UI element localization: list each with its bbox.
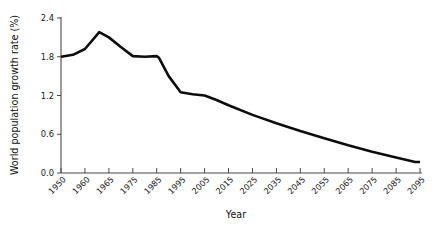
line-chart-canvas: 0.00.61.21.82.4 195019601965197519851995… — [0, 0, 437, 228]
y-tick-label: 0.0 — [41, 168, 54, 178]
x-tick-labels: 1950196019651975198519952005201520252035… — [46, 174, 427, 196]
x-tick-label: 2035 — [262, 174, 284, 196]
x-tick-label: 2095 — [405, 174, 427, 196]
y-tick-label: 1.8 — [41, 52, 54, 62]
x-axis-title: Year — [225, 209, 246, 220]
y-tick-label: 2.4 — [41, 13, 54, 23]
x-tick-label: 2015 — [214, 174, 236, 196]
y-tick-label: 1.2 — [41, 91, 54, 101]
x-tick-label: 2055 — [309, 174, 331, 196]
x-tick-label: 1960 — [70, 174, 92, 196]
x-tick-label: 2025 — [238, 174, 260, 196]
x-tick-label: 2085 — [381, 174, 403, 196]
y-tick-labels: 0.00.61.21.82.4 — [41, 13, 54, 178]
chart-figure: 0.00.61.21.82.4 195019601965197519851995… — [0, 0, 437, 228]
data-series-line — [61, 32, 420, 162]
x-tick-marks — [61, 168, 420, 173]
x-tick-label: 1985 — [142, 174, 164, 196]
x-tick-label: 2065 — [333, 174, 355, 196]
y-tick-label: 0.6 — [41, 129, 54, 139]
x-tick-label: 1995 — [166, 174, 188, 196]
x-tick-label: 1975 — [118, 174, 140, 196]
y-axis-title: World population growth rate (%) — [9, 15, 20, 175]
y-tick-marks — [57, 18, 61, 173]
x-tick-label: 2045 — [285, 174, 307, 196]
x-tick-label: 2005 — [190, 174, 212, 196]
x-tick-label: 2075 — [357, 174, 379, 196]
x-tick-label: 1965 — [94, 174, 116, 196]
